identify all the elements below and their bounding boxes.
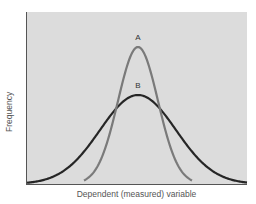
distribution-chart bbox=[0, 0, 256, 204]
peak-label-b: B bbox=[135, 81, 140, 90]
x-axis-label: Dependent (measured) variable bbox=[26, 189, 247, 199]
peak-label-a: A bbox=[135, 33, 140, 42]
y-axis-label: Frequency bbox=[4, 118, 14, 132]
